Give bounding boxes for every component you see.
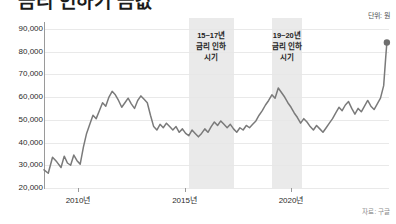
x-axis-tick-label: 2020년 [279,194,304,205]
source-label: 자료: 구글 [362,206,390,216]
gridline [45,188,389,189]
x-axis-tick-mark [78,188,79,192]
y-axis-tick-label: 50,000 [0,115,43,124]
x-axis-tick-label: 2015년 [172,194,197,205]
chart-plot-area: 2010년2015년2020년 15~17년금리 인하시기19~20년금리 인하… [44,22,389,188]
band-label-line: 금리 인하 [272,41,302,52]
band-label-rate-cut-2019-2020: 19~20년금리 인하시기 [272,30,302,63]
x-axis-tick-mark [185,188,186,192]
band-label-line: 19~20년 [272,30,302,41]
x-axis-tick-label: 2010년 [66,194,91,205]
band-label-line: 시기 [272,52,302,63]
last-point-marker [384,39,390,45]
page-title: 금리 인하기 금값 [18,0,152,13]
y-axis-tick-label: 40,000 [0,138,43,147]
y-axis-tick-label: 90,000 [0,24,43,33]
chart-screenshot: 금리 인하기 금값 단위: 원 2010년2015년2020년 15~17년금리… [0,0,396,224]
band-label-line: 금리 인하 [196,41,226,52]
unit-label: 단위: 원 [368,10,390,20]
y-axis-tick-label: 70,000 [0,69,43,78]
y-axis-tick-label: 20,000 [0,183,43,192]
band-label-rate-cut-2015-2017: 15~17년금리 인하시기 [196,30,226,63]
x-axis-tick-mark [291,188,292,192]
y-axis-tick-label: 60,000 [0,92,43,101]
y-axis-tick-label: 30,000 [0,160,43,169]
band-label-line: 15~17년 [196,30,226,41]
y-axis-tick-label: 80,000 [0,47,43,56]
band-label-line: 시기 [196,52,226,63]
